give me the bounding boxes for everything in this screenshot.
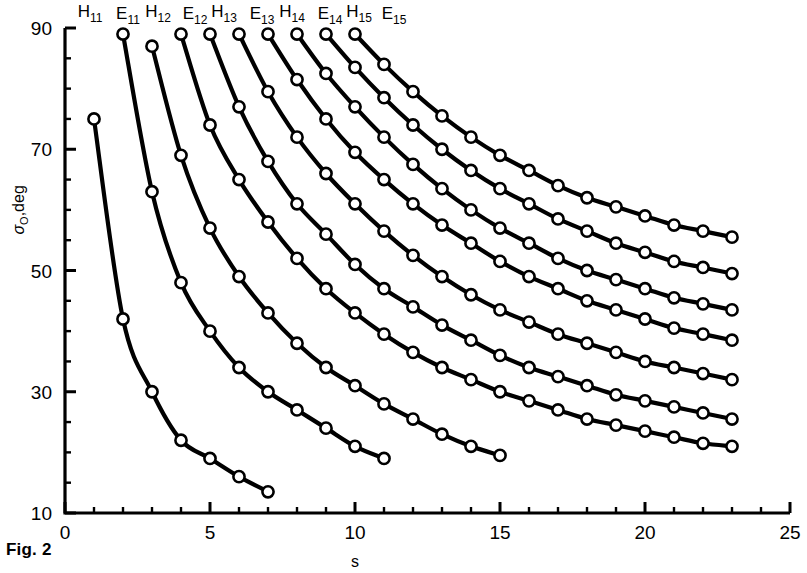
data-point-marker (610, 347, 621, 358)
data-point-marker (233, 271, 244, 282)
data-point-marker (552, 283, 563, 294)
y-axis-tick-label: 90 (31, 18, 52, 39)
data-point-marker (378, 329, 389, 340)
data-point-marker (407, 198, 418, 209)
chart-canvas: H11E11H12E12H13E13H14E14H15E15 103050709… (0, 0, 807, 573)
data-point-marker (726, 441, 737, 452)
data-point-marker (175, 150, 186, 161)
data-point-marker (581, 225, 592, 236)
data-point-marker (233, 471, 244, 482)
data-point-marker (465, 204, 476, 215)
data-point-marker (262, 28, 273, 39)
data-point-marker (639, 247, 650, 258)
data-point-marker (262, 156, 273, 167)
data-point-marker (552, 371, 563, 382)
data-point-marker (407, 119, 418, 130)
data-point-marker (262, 486, 273, 497)
data-point-marker (465, 289, 476, 300)
curve-label-e13: E13 (250, 4, 275, 27)
data-point-marker (465, 374, 476, 385)
data-point-marker (465, 165, 476, 176)
curve-label-h13: H13 (211, 2, 237, 25)
data-point-marker (610, 274, 621, 285)
data-point-marker (146, 386, 157, 397)
data-point-marker (581, 338, 592, 349)
data-point-marker (262, 86, 273, 97)
data-point-marker (697, 298, 708, 309)
data-point-marker (407, 413, 418, 424)
data-point-marker (262, 307, 273, 318)
data-point-marker (523, 238, 534, 249)
data-point-marker (436, 429, 447, 440)
data-point-marker (407, 301, 418, 312)
data-point-marker (552, 253, 563, 264)
curve-label-e15: E15 (382, 4, 407, 27)
data-point-marker (291, 253, 302, 264)
data-point-marker (320, 283, 331, 294)
data-point-marker (378, 132, 389, 143)
figure-container: H11E11H12E12H13E13H14E14H15E15 103050709… (0, 0, 807, 573)
data-point-marker (523, 198, 534, 209)
data-point-marker (407, 250, 418, 261)
data-point-marker (378, 283, 389, 294)
data-point-marker (117, 313, 128, 324)
data-point-marker (175, 435, 186, 446)
data-point-marker (494, 350, 505, 361)
data-point-marker (668, 256, 679, 267)
data-point-marker (291, 74, 302, 85)
data-point-marker (726, 413, 737, 424)
y-axis-tick-label: 70 (31, 139, 52, 160)
y-axis-tick-label: 50 (31, 261, 52, 282)
data-point-marker (639, 313, 650, 324)
data-point-marker (523, 165, 534, 176)
data-point-marker (146, 186, 157, 197)
data-point-marker (610, 389, 621, 400)
data-point-marker (697, 262, 708, 273)
data-point-marker (610, 304, 621, 315)
data-point-marker (204, 453, 215, 464)
y-axis-title: σO,deg (10, 185, 30, 234)
data-point-marker (639, 210, 650, 221)
data-point-marker (523, 362, 534, 373)
curve-label-e12: E12 (183, 4, 208, 27)
data-point-marker (407, 159, 418, 170)
data-point-marker (291, 404, 302, 415)
x-axis-tick-label: 5 (205, 522, 216, 543)
data-point-marker (262, 216, 273, 227)
data-point-marker (320, 423, 331, 434)
data-point-marker (610, 201, 621, 212)
x-axis-tick-label: 25 (779, 522, 800, 543)
data-point-marker (639, 395, 650, 406)
data-point-marker (668, 322, 679, 333)
data-point-marker (726, 268, 737, 279)
data-point-marker (291, 28, 302, 39)
data-curve (210, 34, 732, 419)
data-point-marker (436, 362, 447, 373)
data-point-marker (349, 101, 360, 112)
data-point-marker (639, 356, 650, 367)
data-point-marker (668, 292, 679, 303)
data-point-marker (494, 150, 505, 161)
data-point-marker (668, 432, 679, 443)
data-point-marker (349, 147, 360, 158)
data-point-marker (349, 380, 360, 391)
data-point-marker (378, 225, 389, 236)
data-point-marker (610, 419, 621, 430)
data-point-marker (639, 283, 650, 294)
data-point-marker (581, 413, 592, 424)
data-point-marker (320, 68, 331, 79)
data-point-marker (552, 213, 563, 224)
x-axis-tick-label: 20 (634, 522, 655, 543)
markers-layer (88, 28, 737, 497)
data-point-marker (581, 295, 592, 306)
data-point-marker (465, 238, 476, 249)
data-point-marker (233, 174, 244, 185)
data-point-marker (262, 386, 273, 397)
data-point-marker (204, 119, 215, 130)
data-point-marker (349, 307, 360, 318)
x-axis-tick-label: 15 (489, 522, 510, 543)
figure-caption: Fig. 2 (6, 540, 52, 560)
data-point-marker (668, 362, 679, 373)
data-point-marker (320, 28, 331, 39)
data-point-marker (349, 259, 360, 270)
